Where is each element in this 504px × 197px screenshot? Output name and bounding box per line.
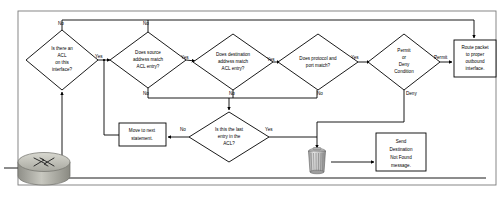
- move-next-label-line-1: statement.: [131, 136, 152, 141]
- node-permit-deny[interactable]: Permit or Deny Condition: [368, 34, 440, 90]
- route-packet-label-line-1: to proper: [466, 52, 485, 57]
- node-source-match[interactable]: Does source address match ACL entry?: [110, 32, 186, 88]
- last-entry-label-line-0: Is this the last: [215, 127, 244, 132]
- node-move-next[interactable]: Move to next statement.: [119, 123, 166, 146]
- connector-acl-no-to-route-packet: [62, 20, 474, 38]
- destination-match-label-line-2: ACL entry?: [222, 66, 245, 71]
- router-icon: [18, 153, 70, 186]
- connector-move-next-to-acl-yes-junction: [104, 60, 119, 135]
- edge-label-protocol-no: No: [317, 91, 323, 96]
- permit-deny-label-line-0: Permit: [397, 48, 411, 53]
- destination-match-label-line-1: address match: [218, 59, 249, 64]
- send-message-label-line-1: Destination: [390, 147, 413, 152]
- edge-label-source-no-top: No: [143, 21, 149, 26]
- route-packet-label-line-3: interface.: [466, 66, 485, 71]
- protocol-port-match-label-line-1: port match?: [306, 63, 331, 68]
- acl-check-label-line-2: on this: [55, 60, 69, 65]
- edge-label-deny: Deny: [406, 91, 417, 96]
- node-protocol-port-match[interactable]: Does protocol and port match?: [278, 34, 358, 90]
- permit-deny-label-line-3: Condition: [394, 69, 414, 74]
- last-entry-label-line-2: ACL?: [223, 141, 235, 146]
- edge-label-protocol-yes: Yes: [351, 55, 359, 60]
- edge-label-destination-no: No: [229, 91, 235, 96]
- protocol-port-match-label-line-0: Does protocol and: [299, 56, 337, 61]
- connector-deny-to-discard: [317, 90, 404, 122]
- acl-check-label-line-0: Is there an: [51, 46, 73, 51]
- last-entry-label-line-1: entry in the: [218, 134, 241, 139]
- source-match-label-line-1: address match: [133, 57, 164, 62]
- edge-label-acl-no: No: [58, 21, 64, 26]
- send-message-label-line-0: Send: [396, 139, 407, 144]
- send-message-label-line-3: message.: [391, 163, 411, 168]
- source-match-label-line-2: ACL entry?: [137, 64, 160, 69]
- source-match-label-line-0: Does source: [135, 50, 161, 55]
- acl-check-label-line-1: ACL: [58, 53, 67, 58]
- edge-label-last-entry-no: No: [180, 127, 186, 132]
- acl-flowchart-svg: Is there an ACL on this interface? Does …: [0, 0, 504, 197]
- move-next-box[interactable]: [119, 123, 166, 146]
- route-packet-label-line-0: Route packet: [461, 45, 489, 50]
- send-message-label-line-2: Not Found: [390, 155, 412, 160]
- node-layer: Is there an ACL on this interface? Does …: [18, 30, 496, 185]
- trash-can-icon: [309, 148, 326, 174]
- move-next-label-line-0: Move to next: [129, 128, 156, 133]
- edge-label-last-entry-yes: Yes: [265, 127, 273, 132]
- permit-deny-label-line-2: Deny: [399, 62, 410, 67]
- node-route-packet[interactable]: Route packet to proper outbound interfac…: [454, 40, 496, 77]
- acl-check-label-line-3: interface?: [52, 67, 73, 72]
- edge-label-source-no-bottom: No: [143, 91, 149, 96]
- flowchart-canvas: Is there an ACL on this interface? Does …: [0, 0, 504, 197]
- node-send-destination-not-found[interactable]: Send Destination Not Found message.: [376, 133, 426, 171]
- edge-label-source-yes: Yes: [181, 55, 189, 60]
- destination-match-label-line-0: Does destination: [216, 52, 251, 57]
- route-packet-label-line-2: outbound: [465, 59, 485, 64]
- protocol-port-match-diamond[interactable]: [278, 34, 358, 90]
- permit-deny-label-line-1: or: [402, 55, 407, 60]
- edge-label-destination-yes: Yes: [267, 57, 275, 62]
- node-acl-check[interactable]: Is there an ACL on this interface?: [26, 30, 98, 90]
- edge-label-acl-yes: Yes: [95, 54, 103, 59]
- junction-dot-acl-yes: [103, 59, 105, 61]
- node-last-entry[interactable]: Is this the last entry in the ACL?: [189, 112, 269, 162]
- edge-label-permit: Permit: [434, 55, 448, 60]
- node-destination-match[interactable]: Does destination address match ACL entry…: [193, 34, 273, 90]
